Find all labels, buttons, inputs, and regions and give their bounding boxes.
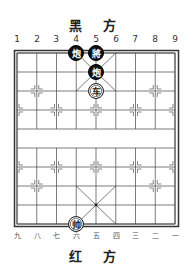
- black-cannon[interactable]: 炮: [88, 64, 104, 80]
- file-label: 一: [168, 230, 182, 240]
- file-label: 五: [89, 230, 103, 240]
- file-label: 三: [128, 230, 142, 240]
- bottom-file-labels: 九 八 七 六 五 四 三 二 一: [0, 230, 193, 242]
- file-label: 九: [10, 230, 24, 240]
- file-label: 六: [69, 230, 83, 240]
- red-chariot[interactable]: 车: [88, 83, 104, 99]
- red-side-label: 红 方: [0, 246, 193, 265]
- file-label: 四: [109, 230, 123, 240]
- file-label: 八: [30, 230, 44, 240]
- file-label: 二: [148, 230, 162, 240]
- file-label: 七: [49, 230, 63, 240]
- black-general[interactable]: 將: [88, 45, 104, 61]
